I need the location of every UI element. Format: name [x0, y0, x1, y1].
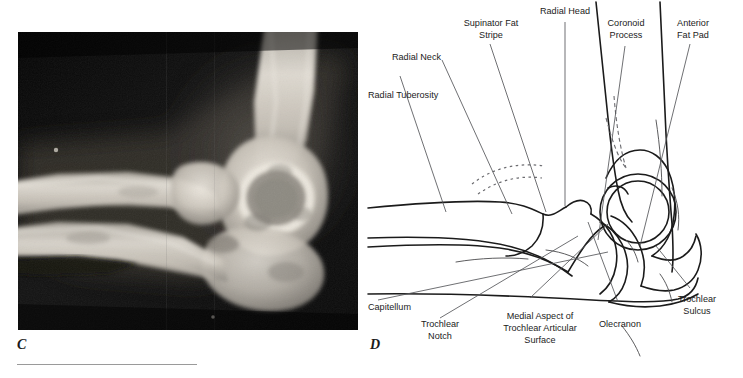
- label-coronoid-process-line1: Coronoid: [608, 18, 645, 28]
- label-radial-neck: Radial Neck: [392, 52, 441, 62]
- leader-olecranon: [588, 222, 618, 302]
- label-olecranon: Olecranon: [599, 319, 641, 329]
- olecranon-outline: [641, 234, 701, 291]
- radius-lower-cortex: [368, 245, 568, 272]
- radiograph-image: [18, 32, 358, 330]
- radius-medullary-line: [456, 258, 528, 262]
- capitellum-circle: [600, 174, 676, 250]
- ulna-shaft-detail: [622, 326, 640, 356]
- leader-capitellum: [378, 252, 608, 300]
- ulna-upper-cortex: [368, 237, 572, 276]
- leader-radial-neck: [442, 60, 512, 214]
- panel-letter-c: C: [17, 337, 26, 353]
- label-anterior-fat-pad-line1: Anterior: [677, 18, 709, 28]
- figure-page: C: [0, 0, 743, 378]
- condyle-inferior-border: [652, 236, 696, 260]
- label-trochlear-notch-line2: Notch: [428, 331, 452, 341]
- elbow-line-diagram: Radial Tuberosity Radial Neck Supinator …: [360, 0, 743, 378]
- leader-coronoid-process: [598, 46, 625, 240]
- caption-divider-rule: [17, 364, 197, 365]
- radial-head-dome: [566, 200, 591, 214]
- trochlea-inner-circle: [607, 181, 669, 243]
- label-coronoid-process-line2: Process: [610, 30, 643, 40]
- label-medial-aspect-line1: Medial Aspect of: [507, 311, 574, 321]
- leader-trochlear-notch: [440, 236, 578, 318]
- radius-upper-cortex: [368, 201, 566, 215]
- supinator-fat-stripe-dotted: [472, 165, 544, 194]
- label-trochlear-notch-line1: Trochlear: [421, 319, 459, 329]
- label-supinator-fat-stripe-line2: Stripe: [479, 30, 503, 40]
- leader-anterior-fat-pad: [640, 44, 690, 246]
- ulna-lower-cortex: [368, 278, 698, 302]
- label-trochlear-sulcus-line1: Trochlear: [678, 294, 716, 304]
- label-radial-tuberosity: Radial Tuberosity: [368, 90, 439, 100]
- label-capitellum: Capitellum: [368, 302, 411, 312]
- leader-supinator-fat-stripe: [490, 44, 546, 212]
- label-medial-aspect-line3: Surface: [524, 335, 555, 345]
- radiograph-panel: [18, 32, 358, 330]
- label-medial-aspect-line2: Trochlear Articular: [503, 323, 576, 333]
- bone-outlines: [368, 2, 701, 307]
- label-supinator-fat-stripe-line1: Supinator Fat: [464, 18, 519, 28]
- diagram-panel: Radial Tuberosity Radial Neck Supinator …: [360, 0, 743, 378]
- panel-letter-d: D: [370, 337, 380, 353]
- label-radial-head: Radial Head: [540, 6, 590, 16]
- leader-medial-aspect: [530, 224, 608, 298]
- label-anterior-fat-pad-line2: Fat Pad: [677, 30, 709, 40]
- label-trochlear-sulcus-line2: Sulcus: [683, 306, 711, 316]
- olecranon-detail-line: [660, 274, 672, 302]
